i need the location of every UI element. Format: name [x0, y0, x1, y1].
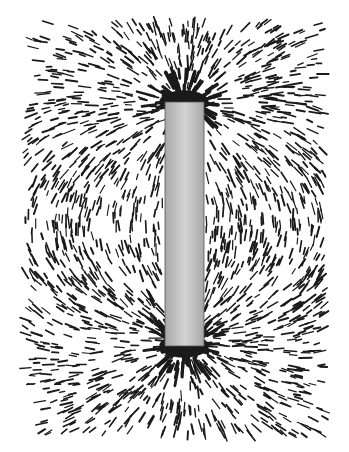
magnetic-field-figure [0, 0, 349, 452]
bar-magnet [165, 102, 204, 346]
